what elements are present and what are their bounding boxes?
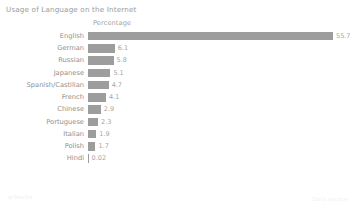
bar [88, 81, 109, 90]
bar-value-label: 1.9 [96, 131, 109, 138]
bar-track: 6.1 [88, 42, 356, 54]
bar-category-label: Chinese [0, 106, 88, 113]
bar-row: Russian5.8 [0, 55, 356, 67]
bar-category-label: Japanese [0, 70, 88, 77]
bar-category-label: Italian [0, 131, 88, 138]
bar-value-label: 55.7 [333, 33, 350, 40]
bar-value-label: 4.1 [106, 94, 119, 101]
bar-row: Hindi0.02 [0, 153, 356, 165]
bar-category-label: Spanish/Castilian [0, 82, 88, 89]
footer-right-watermark: Data source [312, 196, 348, 202]
bar [88, 130, 96, 139]
bar-category-label: English [0, 33, 88, 40]
bar-value-label: 0.02 [89, 155, 106, 162]
bar [88, 118, 98, 127]
bar [88, 105, 101, 114]
bar-value-label: 4.7 [109, 82, 122, 89]
bar-category-label: Russian [0, 57, 88, 64]
bar-track: 0.02 [88, 153, 356, 165]
bar-row: French4.1 [0, 91, 356, 103]
bar-row: Italian1.9 [0, 128, 356, 140]
bar [88, 69, 110, 78]
bar-row: Portuguese2.3 [0, 116, 356, 128]
bar [88, 142, 95, 151]
bar-track: 5.1 [88, 67, 356, 79]
axis-header-percentage: Percentage [93, 19, 131, 27]
bar [88, 44, 115, 53]
bar-value-label: 6.1 [115, 45, 128, 52]
bar [88, 93, 106, 102]
bar-category-label: French [0, 94, 88, 101]
bar [88, 56, 114, 65]
bar-value-label: 5.8 [114, 57, 127, 64]
language-usage-chart: Usage of Language on the Internet Percen… [0, 0, 356, 217]
bar-value-label: 2.3 [98, 119, 111, 126]
bar-track: 1.7 [88, 140, 356, 152]
chart-title: Usage of Language on the Internet [6, 5, 136, 14]
bar-category-label: Hindi [0, 155, 88, 162]
bar-row: German6.1 [0, 42, 356, 54]
bar-plot-area: English55.7German6.1Russian5.8Japanese5.… [0, 30, 356, 180]
bar-row: Spanish/Castilian4.7 [0, 79, 356, 91]
footer-left-watermark: w3techs [8, 194, 33, 200]
bar-category-label: German [0, 45, 88, 52]
bar-row: Japanese5.1 [0, 67, 356, 79]
bar-row: Polish1.7 [0, 140, 356, 152]
bar-track: 2.3 [88, 116, 356, 128]
bar [88, 32, 333, 41]
bar-value-label: 2.9 [101, 106, 114, 113]
bar-category-label: Polish [0, 143, 88, 150]
bar-track: 4.7 [88, 79, 356, 91]
bar-track: 1.9 [88, 128, 356, 140]
bar-track: 5.8 [88, 55, 356, 67]
bar-track: 4.1 [88, 91, 356, 103]
bar-category-label: Portuguese [0, 119, 88, 126]
bar-track: 55.7 [88, 30, 356, 42]
bar-track: 2.9 [88, 104, 356, 116]
bar-row: English55.7 [0, 30, 356, 42]
bar-value-label: 5.1 [110, 70, 123, 77]
bar-value-label: 1.7 [95, 143, 108, 150]
bar-row: Chinese2.9 [0, 104, 356, 116]
